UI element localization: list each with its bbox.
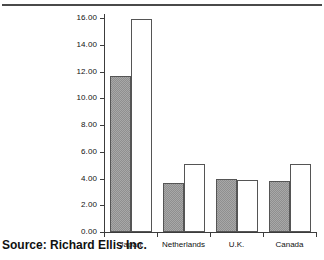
source-caption: Source: Richard Ellis Inc.: [2, 238, 147, 252]
bar-group: U.K.: [210, 18, 263, 232]
x-tick-mark: [263, 232, 264, 237]
x-category-label: Netherlands: [157, 240, 210, 249]
bar-series-b: [290, 164, 311, 232]
bar-series-b: [131, 19, 152, 232]
bar-pair: [104, 18, 157, 232]
x-tick-mark: [210, 232, 211, 237]
x-tick-mark: [104, 232, 105, 237]
y-tick-label: 6.00: [81, 148, 97, 156]
y-tick-label: 12.00: [76, 68, 97, 76]
plot-area: 0.002.004.006.008.0010.0012.0014.0016.00…: [104, 18, 316, 232]
bar-series-b: [184, 164, 205, 232]
top-divider-rule: [2, 4, 322, 6]
bar-series-b: [237, 180, 258, 232]
bar-group: Japan: [104, 18, 157, 232]
x-category-label: U.K.: [210, 240, 263, 249]
y-tick-label: 16.00: [76, 14, 97, 22]
bar-pair: [210, 18, 263, 232]
bar-group: Canada: [263, 18, 316, 232]
x-tick-mark: [316, 232, 317, 237]
bar-series-a: [216, 179, 237, 233]
chart-figure: 0.002.004.006.008.0010.0012.0014.0016.00…: [0, 0, 324, 260]
bar-series-a: [163, 183, 184, 232]
bar-series-a: [110, 76, 131, 232]
x-category-label: Canada: [263, 240, 316, 249]
x-tick-mark: [157, 232, 158, 237]
bar-group: Netherlands: [157, 18, 210, 232]
bar-series-a: [269, 181, 290, 232]
y-tick-label: 0.00: [81, 228, 97, 236]
y-tick-label: 8.00: [81, 121, 97, 129]
y-tick-label: 10.00: [76, 94, 97, 102]
y-tick-label: 14.00: [76, 41, 97, 49]
y-tick-label: 4.00: [81, 175, 97, 183]
bar-pair: [157, 18, 210, 232]
y-tick-label: 2.00: [81, 201, 97, 209]
bar-pair: [263, 18, 316, 232]
